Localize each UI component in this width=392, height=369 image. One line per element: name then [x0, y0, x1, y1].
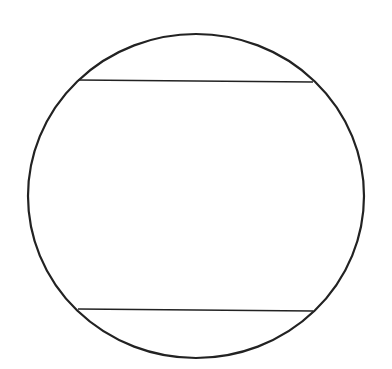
- circle-chords-diagram: [0, 0, 392, 369]
- bottom-chord-line: [78, 309, 313, 311]
- diagram-canvas: [0, 0, 392, 369]
- top-chord-line: [78, 80, 313, 82]
